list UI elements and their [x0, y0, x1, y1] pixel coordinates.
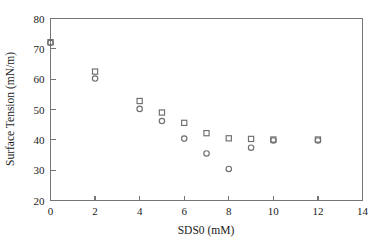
- x-axis-title: SDS0 (mM): [178, 224, 235, 237]
- chart-figure: 20304050607080 02468101214 SDS0 (mM) Sur…: [0, 0, 383, 244]
- data-point-square-5: [159, 110, 164, 115]
- x-tick-label-12: 12: [312, 205, 323, 217]
- data-point-circle-5: [159, 118, 164, 123]
- data-point-circle-7: [204, 151, 209, 156]
- y-tick-label-30: 30: [34, 164, 46, 176]
- x-tick-label-0: 0: [48, 205, 54, 217]
- x-tick-label-6: 6: [181, 205, 187, 217]
- data-point-square-7: [204, 131, 209, 136]
- plot-frame: [51, 19, 363, 201]
- x-tick-label-14: 14: [357, 205, 369, 217]
- x-tick-label-2: 2: [92, 205, 98, 217]
- x-tick-label-8: 8: [226, 205, 232, 217]
- data-point-circle-4: [137, 106, 142, 111]
- x-tick-label-4: 4: [137, 205, 143, 217]
- data-markers: [48, 40, 321, 172]
- data-point-square-9: [248, 136, 253, 141]
- x-tick-label-10: 10: [268, 205, 280, 217]
- y-axis-tick-labels: 20304050607080: [34, 13, 46, 207]
- series-circle-series: [48, 40, 321, 172]
- y-tick-label-50: 50: [34, 104, 46, 116]
- y-tick-label-20: 20: [34, 195, 46, 207]
- data-point-square-2: [92, 69, 97, 74]
- y-axis-title: Surface Tension (mN/m): [4, 52, 17, 166]
- series-square-series: [48, 40, 321, 143]
- y-tick-label-40: 40: [34, 134, 46, 146]
- data-point-circle-9: [248, 145, 253, 150]
- x-axis-tick-labels: 02468101214: [48, 205, 369, 217]
- data-point-circle-8: [226, 166, 231, 171]
- data-point-square-6: [182, 120, 187, 125]
- axes-frame: [51, 19, 363, 201]
- data-point-square-4: [137, 98, 142, 103]
- data-point-square-8: [226, 136, 231, 141]
- scatter-plot: 20304050607080 02468101214 SDS0 (mM) Sur…: [0, 0, 383, 244]
- y-tick-label-60: 60: [34, 73, 46, 85]
- data-point-circle-6: [182, 136, 187, 141]
- y-tick-label-80: 80: [34, 13, 46, 25]
- y-tick-label-70: 70: [34, 43, 46, 55]
- data-point-circle-2: [92, 76, 97, 81]
